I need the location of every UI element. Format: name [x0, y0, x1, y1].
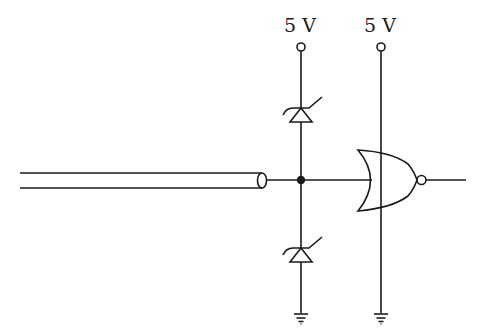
zener-diode-bottom	[283, 237, 322, 262]
zener-diode-top	[283, 97, 322, 122]
supply-terminal-right	[377, 43, 385, 51]
ground-icon-right	[374, 314, 388, 324]
supply-label-right: 5 V	[364, 14, 396, 36]
supply-terminal-left	[297, 43, 305, 51]
supply-label-left: 5 V	[284, 14, 316, 36]
nor-gate	[358, 150, 466, 211]
circuit-diagram: 5 V 5 V	[0, 0, 488, 336]
coaxial-cable	[20, 173, 301, 188]
ground-icon-left	[294, 314, 308, 324]
nor-output-bubble	[417, 176, 426, 185]
